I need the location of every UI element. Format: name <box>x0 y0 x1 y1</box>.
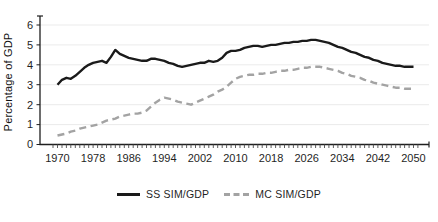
x-tick-label: 2034 <box>330 152 354 164</box>
x-tick-label: 1994 <box>152 152 176 164</box>
ss-line-swatch <box>117 193 140 196</box>
y-tick-label: 5 <box>27 39 33 51</box>
mc-line-swatch <box>224 193 249 196</box>
x-tick-label: 2050 <box>401 152 425 164</box>
y-tick-label: 4 <box>27 59 33 71</box>
y-tick-label: 1 <box>27 118 33 130</box>
x-tick-label: 2026 <box>294 152 318 164</box>
y-tick-label: 6 <box>27 19 33 31</box>
axes <box>40 16 429 145</box>
x-tick-label: 2018 <box>259 152 283 164</box>
x-tick-label: 1978 <box>81 152 105 164</box>
legend: SS SIM/GDP MC SIM/GDP <box>0 188 438 200</box>
mc-series-line <box>58 67 414 136</box>
x-tick-label: 2002 <box>188 152 212 164</box>
legend-item-ss: SS SIM/GDP <box>117 188 209 200</box>
x-tick-label: 2042 <box>366 152 390 164</box>
y-tick-label: 2 <box>27 99 33 111</box>
legend-item-mc: MC SIM/GDP <box>224 188 321 200</box>
y-tick-label: 3 <box>27 79 33 91</box>
y-axis-title: Percentage of GDP <box>2 33 14 132</box>
x-tick-label: 1970 <box>45 152 69 164</box>
x-tick-label: 1986 <box>116 152 140 164</box>
x-tick-label: 2010 <box>223 152 247 164</box>
line-chart-figure: Percentage of GDP 0123456197019781986199… <box>0 0 438 222</box>
y-tick-label: 0 <box>27 138 33 150</box>
legend-label-mc: MC SIM/GDP <box>255 188 321 200</box>
chart-plot-area: Percentage of GDP 0123456197019781986199… <box>0 0 438 172</box>
legend-label-ss: SS SIM/GDP <box>146 188 209 200</box>
